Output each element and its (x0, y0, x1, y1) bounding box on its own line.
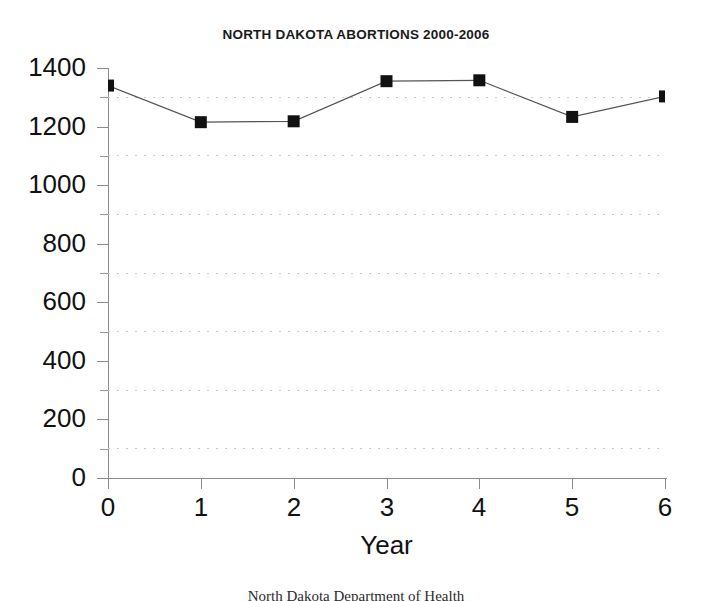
chart-plot-canvas (108, 68, 665, 478)
x-axis-tick-label: 0 (88, 494, 128, 520)
y-axis-tick-label: 600 (0, 288, 86, 314)
data-markers-group (108, 74, 665, 128)
data-point-marker (659, 90, 665, 102)
y-axis-tick-label: 1000 (0, 171, 86, 197)
data-point-marker (566, 111, 578, 123)
y-axis-tick (97, 185, 108, 186)
x-axis-tick-label: 3 (367, 494, 407, 520)
x-axis-tick-label: 4 (459, 494, 499, 520)
y-axis-minor-tick (100, 390, 108, 391)
y-axis-tick-label: 0 (0, 464, 86, 490)
y-axis-tick (97, 478, 108, 479)
y-axis-tick (97, 361, 108, 362)
y-axis-tick-label: 800 (0, 230, 86, 256)
chart-title: NORTH DAKOTA ABORTIONS 2000-2006 (0, 27, 712, 42)
x-axis-tick (387, 478, 388, 489)
data-point-marker (288, 115, 300, 127)
y-axis-minor-tick (100, 449, 108, 450)
x-axis-tick-label: 2 (274, 494, 314, 520)
y-axis-tick (97, 68, 108, 69)
x-axis-tick (294, 478, 295, 489)
y-axis-minor-tick (100, 156, 108, 157)
y-axis-tick (97, 302, 108, 303)
y-axis-tick (97, 127, 108, 128)
data-point-marker (473, 74, 485, 86)
x-axis-tick (665, 478, 666, 489)
x-axis-tick (108, 478, 109, 489)
data-point-marker (195, 116, 207, 128)
y-axis-tick-label: 200 (0, 405, 86, 431)
data-point-marker (381, 75, 393, 87)
y-axis-tick-label: 1400 (0, 54, 86, 80)
x-axis-tick (572, 478, 573, 489)
data-point-marker (108, 80, 114, 92)
x-axis-tick-label: 6 (645, 494, 685, 520)
x-axis-line (97, 478, 667, 479)
y-axis-minor-tick (100, 97, 108, 98)
x-axis-title: Year (108, 530, 665, 561)
x-axis-tick-label: 1 (181, 494, 221, 520)
x-axis-tick (201, 478, 202, 489)
y-axis-tick (97, 419, 108, 420)
gridlines-group (108, 97, 665, 448)
y-axis-tick-label: 400 (0, 347, 86, 373)
source-note: North Dakota Department of Health (0, 588, 712, 601)
y-axis-minor-tick (100, 332, 108, 333)
y-axis-minor-tick (100, 273, 108, 274)
x-axis-tick-label: 5 (552, 494, 592, 520)
chart-figure: NORTH DAKOTA ABORTIONS 2000-2006 1400120… (0, 0, 712, 601)
y-axis-tick-label: 1200 (0, 113, 86, 139)
y-axis-minor-tick (100, 214, 108, 215)
plot-area (108, 68, 665, 478)
x-axis-tick (479, 478, 480, 489)
y-axis-tick (97, 244, 108, 245)
